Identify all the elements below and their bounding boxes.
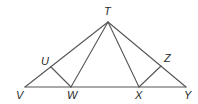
- segments: [25, 22, 186, 87]
- label-z: Z: [163, 52, 172, 64]
- label-v: V: [16, 89, 25, 101]
- segment-vt: [25, 22, 108, 87]
- segment-ty: [108, 22, 186, 87]
- geometry-diagram: T U V W X Z Y: [0, 0, 198, 104]
- label-u: U: [41, 55, 49, 67]
- label-x: X: [134, 89, 143, 101]
- label-y: Y: [184, 89, 192, 101]
- triangle-figure: T U V W X Z Y: [0, 0, 198, 104]
- segment-tx: [108, 22, 139, 87]
- segment-tw: [71, 22, 108, 87]
- segment-xz: [139, 66, 161, 87]
- segment-uw: [51, 67, 71, 87]
- label-t: T: [104, 5, 112, 17]
- label-w: W: [67, 89, 79, 101]
